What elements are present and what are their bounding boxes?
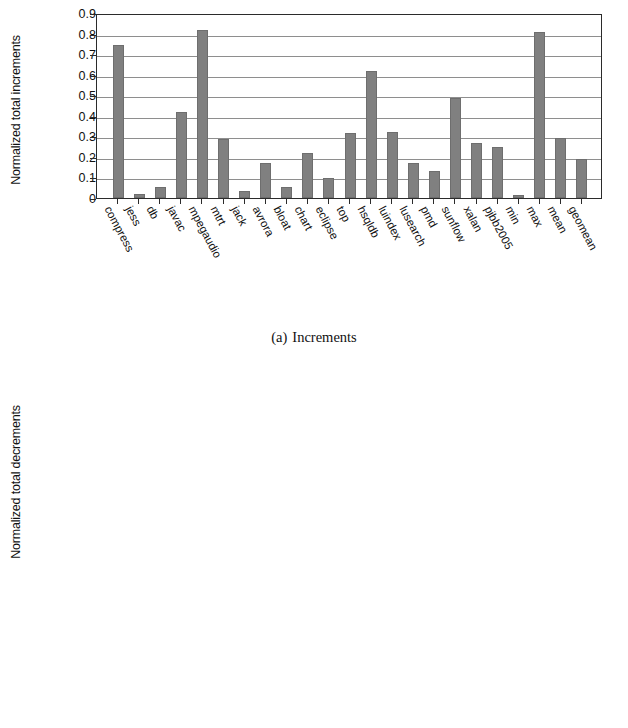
bar — [239, 191, 250, 198]
bar — [408, 163, 419, 198]
bar — [323, 178, 334, 198]
gridline — [97, 56, 601, 57]
bar — [471, 143, 482, 199]
x-tick-label: jack — [229, 204, 249, 228]
plot-area-increments — [96, 14, 602, 199]
bar — [534, 32, 545, 199]
bar — [218, 139, 229, 198]
bar — [576, 159, 587, 198]
x-tick-label: pmd — [419, 204, 440, 229]
bar — [366, 71, 377, 198]
figure-increments: Normalized total increments 0.90.80.70.6… — [0, 0, 628, 364]
bar — [302, 153, 313, 198]
bar — [281, 187, 292, 198]
bar — [429, 171, 440, 198]
figure-caption-increments: (a)Increments — [0, 329, 628, 346]
bar — [134, 194, 145, 198]
bar — [492, 147, 503, 198]
y-axis-increments: 0.90.80.70.60.50.40.30.20.10 — [42, 14, 96, 199]
x-tick-label: bloat — [271, 204, 293, 232]
x-tick-label: max — [524, 204, 545, 229]
x-tick-label: min — [503, 204, 522, 226]
x-tick-label: javac — [166, 204, 189, 233]
bar — [197, 30, 208, 198]
figure-decrements: Normalized total decrements 0.60.50.40.3… — [0, 364, 628, 728]
bar — [555, 138, 566, 198]
bar — [155, 187, 166, 198]
bar — [345, 133, 356, 198]
x-tick-label: chart — [292, 204, 315, 232]
bar — [513, 195, 524, 198]
bar — [176, 112, 187, 198]
gridline — [97, 36, 601, 37]
y-axis-title-decrements: Normalized total decrements — [9, 384, 29, 580]
bar — [387, 132, 398, 198]
x-axis-labels-increments: compressjessdbjavacmpegaudiomtrtjackavro… — [96, 204, 602, 314]
caption-text: Increments — [292, 329, 356, 345]
bar — [450, 98, 461, 198]
x-tick-label: xalan — [461, 204, 485, 234]
x-tick-label: top — [334, 204, 352, 224]
y-axis-title-increments: Normalized total increments — [9, 12, 29, 208]
gridline — [97, 77, 601, 78]
x-tick-label: jess — [124, 204, 144, 228]
gridline — [97, 118, 601, 119]
gridline — [97, 97, 601, 98]
x-tick-label: db — [145, 204, 162, 221]
caption-tag: (a) — [271, 329, 287, 345]
bar — [260, 163, 271, 198]
x-tick-label: mtrt — [208, 204, 228, 227]
bar — [113, 45, 124, 198]
x-tick-label: geomean — [566, 204, 599, 252]
